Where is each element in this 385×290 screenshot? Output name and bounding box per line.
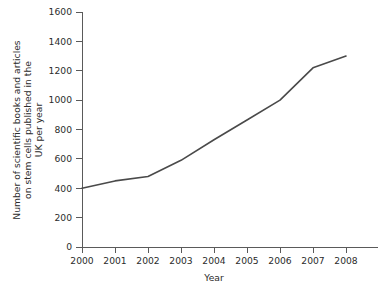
y-tick-label-1200: 1200 [49,65,73,76]
x-tick-label-2004: 2004 [202,255,226,266]
x-tick-label-2006: 2006 [268,255,292,266]
x-axis-ticks [82,247,346,253]
y-tick-label-1400: 1400 [49,36,73,47]
y-axis-title-line-1: Number of scientific books and articles [11,40,22,220]
chart-canvas: 0 200 400 600 800 1000 1200 1400 1600 20… [0,0,385,290]
x-tick-label-2005: 2005 [235,255,259,266]
x-tick-label-2008: 2008 [334,255,358,266]
x-axis-tick-labels: 2000 2001 2002 2003 2004 2005 2006 2007 … [70,255,358,266]
data-series-line [82,56,346,188]
y-tick-label-1600: 1600 [49,6,73,17]
y-axis-tick-labels: 0 200 400 600 800 1000 1200 1400 1600 [49,6,73,252]
y-axis-title-line-3: UK per year [33,103,44,158]
x-tick-label-2002: 2002 [136,255,159,266]
y-axis-title: Number of scientific books and articles … [11,40,44,220]
y-tick-label-800: 800 [54,124,72,135]
y-axis-title-line-2: on stem cells published in the [22,61,33,199]
y-tick-label-1000: 1000 [49,94,73,105]
y-tick-label-0: 0 [66,241,72,252]
x-tick-label-2000: 2000 [70,255,94,266]
y-tick-label-400: 400 [54,183,72,194]
y-tick-label-600: 600 [54,153,72,164]
y-tick-label-200: 200 [54,212,72,223]
x-tick-label-2001: 2001 [103,255,126,266]
x-tick-label-2003: 2003 [169,255,193,266]
line-chart-figure: 0 200 400 600 800 1000 1200 1400 1600 20… [0,0,385,290]
x-tick-label-2007: 2007 [301,255,325,266]
x-axis-title: Year [203,272,224,283]
y-axis-ticks [76,12,82,247]
